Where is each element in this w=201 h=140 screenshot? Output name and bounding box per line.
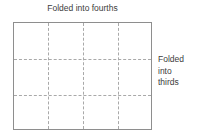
vertical-fold-line-1 xyxy=(48,23,49,129)
folded-paper-diagram: Folded into fourths Folded into thirds xyxy=(0,0,201,140)
horizontal-fold-line-2 xyxy=(14,95,151,96)
top-caption-label: Folded into fourths xyxy=(0,3,165,14)
fold-lines-layer xyxy=(14,23,151,129)
side-caption-line-2: into xyxy=(158,66,201,78)
paper-rectangle xyxy=(13,22,152,130)
side-caption-line-3: thirds xyxy=(158,77,201,89)
vertical-fold-line-3 xyxy=(118,23,119,129)
side-caption-label: Folded into thirds xyxy=(158,54,201,89)
horizontal-fold-line-1 xyxy=(14,59,151,60)
vertical-fold-line-2 xyxy=(83,23,84,129)
side-caption-line-1: Folded xyxy=(158,54,201,66)
